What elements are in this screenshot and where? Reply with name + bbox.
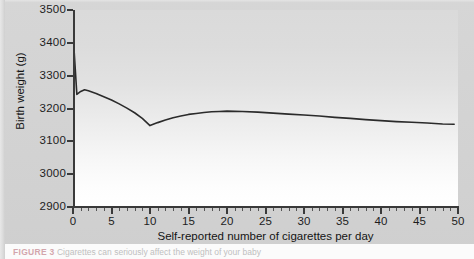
x-axis-tick-label: 0 xyxy=(70,215,76,227)
data-series-line xyxy=(73,33,454,126)
x-axis-tick-label: 25 xyxy=(259,215,272,227)
x-axis-minor-tick xyxy=(373,208,374,211)
x-axis-tick xyxy=(72,208,74,214)
x-axis-minor-tick xyxy=(165,208,166,211)
x-axis-tick xyxy=(188,208,190,214)
x-axis-tick-label: 20 xyxy=(221,215,234,227)
x-axis-tick xyxy=(457,208,459,214)
y-axis-tick-label: 3200 xyxy=(40,102,66,114)
x-axis-tick xyxy=(303,208,305,214)
x-axis-minor-tick xyxy=(350,208,351,211)
x-axis-minor-tick xyxy=(81,208,82,211)
x-axis-tick xyxy=(111,208,113,214)
x-axis-minor-tick xyxy=(104,208,105,211)
x-axis-minor-tick xyxy=(258,208,259,211)
x-axis-minor-tick xyxy=(173,208,174,211)
y-axis-line xyxy=(73,10,75,208)
y-axis-tick-label: 3500 xyxy=(40,3,66,15)
x-axis-minor-tick xyxy=(450,208,451,211)
x-axis-tick xyxy=(342,208,344,214)
figure-caption-label: FIGURE 3 xyxy=(13,247,55,257)
x-axis-minor-tick xyxy=(242,208,243,211)
x-axis-minor-tick xyxy=(235,208,236,211)
plot-area xyxy=(73,10,458,207)
figure-caption-text: Cigarettes can seriously affect the weig… xyxy=(57,247,261,257)
y-axis-tick xyxy=(67,75,73,77)
y-axis-tick xyxy=(67,42,73,44)
x-axis-tick-label: 45 xyxy=(413,215,426,227)
y-axis-tick xyxy=(67,140,73,142)
x-axis-minor-tick xyxy=(319,208,320,211)
x-axis-tick xyxy=(380,208,382,214)
x-axis-minor-tick xyxy=(181,208,182,211)
x-axis-tick-label: 15 xyxy=(182,215,195,227)
x-axis-tick xyxy=(265,208,267,214)
x-axis-tick xyxy=(419,208,421,214)
x-axis-minor-tick xyxy=(389,208,390,211)
x-axis-minor-tick xyxy=(312,208,313,211)
x-axis-tick xyxy=(149,208,151,214)
x-axis-minor-tick xyxy=(219,208,220,211)
x-axis-minor-tick xyxy=(366,208,367,211)
x-axis-minor-tick xyxy=(204,208,205,211)
x-axis-tick-label: 50 xyxy=(452,215,465,227)
y-axis-tick xyxy=(67,9,73,11)
scan-edge-left xyxy=(0,0,5,259)
x-axis-minor-tick xyxy=(327,208,328,211)
x-axis-minor-tick xyxy=(281,208,282,211)
x-axis-minor-tick xyxy=(212,208,213,211)
x-axis-minor-tick xyxy=(88,208,89,211)
x-axis-minor-tick xyxy=(135,208,136,211)
figure-caption: FIGURE 3 Cigarettes can seriously affect… xyxy=(13,247,261,257)
y-axis-tick xyxy=(67,108,73,110)
y-axis-tick-label: 3000 xyxy=(40,167,66,179)
x-axis-minor-tick xyxy=(404,208,405,211)
x-axis-minor-tick xyxy=(196,208,197,211)
x-axis-tick-label: 5 xyxy=(108,215,114,227)
x-axis-minor-tick xyxy=(96,208,97,211)
x-axis-minor-tick xyxy=(358,208,359,211)
x-axis-minor-tick xyxy=(158,208,159,211)
y-axis-tick-label: 3100 xyxy=(40,134,66,146)
y-axis-tick-label: 3300 xyxy=(40,69,66,81)
figure-caption-band: FIGURE 3 Cigarettes can seriously affect… xyxy=(5,244,474,259)
figure-container: 2900300031003200330034003500 05101520253… xyxy=(0,0,474,259)
x-axis-minor-tick xyxy=(127,208,128,211)
x-axis-title: Self-reported number of cigarettes per d… xyxy=(73,230,458,242)
y-axis-title: Birth weight (g) xyxy=(14,11,26,171)
x-axis-tick-label: 40 xyxy=(375,215,388,227)
scan-edge-top xyxy=(0,0,474,3)
x-axis-minor-tick xyxy=(335,208,336,211)
x-axis-minor-tick xyxy=(443,208,444,211)
x-axis-minor-tick xyxy=(427,208,428,211)
x-axis-tick-label: 35 xyxy=(336,215,349,227)
x-axis-minor-tick xyxy=(142,208,143,211)
x-axis-minor-tick xyxy=(396,208,397,211)
x-axis-tick xyxy=(226,208,228,214)
y-axis-tick-label: 2900 xyxy=(40,200,66,212)
x-axis-minor-tick xyxy=(296,208,297,211)
x-axis-minor-tick xyxy=(119,208,120,211)
line-chart-svg xyxy=(73,10,458,207)
x-axis-minor-tick xyxy=(435,208,436,211)
x-axis-minor-tick xyxy=(273,208,274,211)
y-axis-tick xyxy=(67,173,73,175)
x-axis-minor-tick xyxy=(250,208,251,211)
x-axis-minor-tick xyxy=(412,208,413,211)
x-axis-tick-label: 10 xyxy=(144,215,157,227)
y-axis-tick-label: 3400 xyxy=(40,36,66,48)
x-axis-minor-tick xyxy=(289,208,290,211)
x-axis-tick-label: 30 xyxy=(298,215,311,227)
